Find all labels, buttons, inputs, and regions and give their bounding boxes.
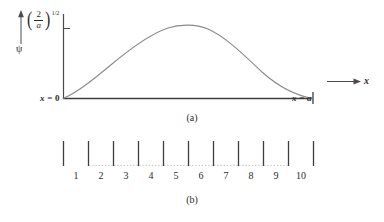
cell-number: 3 (124, 170, 129, 181)
cell-number: 9 (274, 170, 279, 181)
cell-number: 10 (296, 170, 306, 181)
cell-number: 4 (149, 170, 154, 181)
cell-number: 5 (174, 170, 179, 181)
cell-number: 2 (99, 170, 104, 181)
cell-number: 6 (199, 170, 204, 181)
cell-number: 1 (74, 170, 79, 181)
cell-number-row: 1 2 3 4 5 6 7 8 9 10 (0, 0, 384, 222)
cell-number: 7 (224, 170, 229, 181)
figure-root: ( 2 a ) 1/2 ψ x = 0 x = a x (a) (b) 1 2 … (0, 0, 384, 222)
cell-number: 8 (249, 170, 254, 181)
